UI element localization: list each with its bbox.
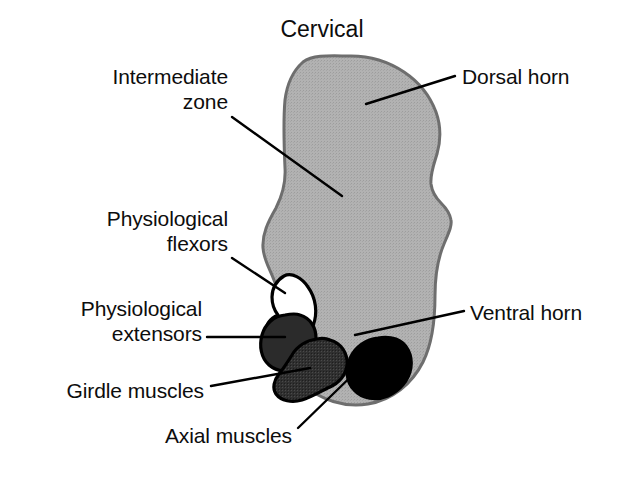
label-girdle-muscles: Girdle muscles <box>24 378 204 403</box>
label-line: Physiological <box>56 206 228 231</box>
figure-root: Cervical IntermediatezonePhysiologicalfl… <box>0 0 634 480</box>
label-line: Intermediate <box>60 64 228 89</box>
label-intermediate-zone: Intermediatezone <box>60 64 228 114</box>
label-line: flexors <box>56 231 228 256</box>
label-axial-muscles: Axial muscles <box>122 423 292 448</box>
label-line: Dorsal horn <box>462 64 622 89</box>
label-line: Ventral horn <box>470 300 630 325</box>
label-ventral-horn: Ventral horn <box>470 300 630 325</box>
label-line: Girdle muscles <box>24 378 204 403</box>
label-line: zone <box>60 89 228 114</box>
label-physiological-flexors: Physiologicalflexors <box>56 206 228 256</box>
figure-title: Cervical <box>247 16 397 43</box>
label-dorsal-horn: Dorsal horn <box>462 64 622 89</box>
label-line: Axial muscles <box>122 423 292 448</box>
label-physiological-extensors: Physiologicalextensors <box>27 296 202 346</box>
label-line: Physiological <box>27 296 202 321</box>
label-line: extensors <box>27 321 202 346</box>
